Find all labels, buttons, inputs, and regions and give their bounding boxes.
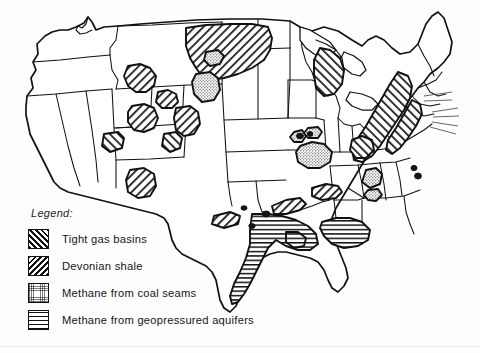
legend-label-devonian-shale: Devonian shale bbox=[62, 260, 143, 272]
region-denver-basin bbox=[174, 106, 200, 136]
legend-label-coal-seams: Methane from coal seams bbox=[62, 287, 196, 299]
bottom-rule bbox=[0, 346, 480, 347]
region-paradox bbox=[102, 132, 124, 152]
legend-swatch-tight-gas-basins bbox=[28, 229, 49, 249]
region-san-juan bbox=[126, 168, 156, 198]
legend-item-geopressured-aquifers: Methane from geopressured aquifers bbox=[28, 309, 428, 331]
region-uinta-piceance bbox=[128, 104, 158, 132]
region-raton bbox=[162, 132, 182, 152]
region-arkoma bbox=[312, 184, 342, 200]
legend: Legend: Tight gas basins Devonian shale … bbox=[28, 207, 428, 336]
legend-swatch-devonian-shale bbox=[28, 256, 49, 276]
us-resource-map: Legend: Tight gas basins Devonian shale … bbox=[0, 0, 480, 353]
region-cincinnati-arch bbox=[350, 136, 374, 158]
legend-label-tight-gas-basins: Tight gas basins bbox=[62, 233, 147, 245]
legend-label-geopressured-aquifers: Methane from geopressured aquifers bbox=[62, 314, 254, 326]
legend-item-tight-gas-basins: Tight gas basins bbox=[28, 228, 428, 250]
region-illinois-basin bbox=[296, 142, 332, 168]
region-wind-river bbox=[156, 90, 178, 108]
legend-item-coal-seams: Methane from coal seams bbox=[28, 282, 428, 304]
legend-swatch-coal-seams bbox=[28, 283, 49, 303]
region-warrior-south bbox=[364, 189, 382, 201]
legend-swatch-geopressured-aquifers bbox=[28, 310, 49, 330]
leader-lines bbox=[424, 92, 459, 134]
region-montana-coal bbox=[204, 50, 224, 66]
legend-item-devonian-shale: Devonian shale bbox=[28, 255, 428, 277]
region-cherokee bbox=[304, 127, 322, 138]
legend-title: Legend: bbox=[31, 207, 428, 219]
region-warrior-basin bbox=[362, 168, 382, 188]
region-powder-river bbox=[192, 72, 220, 102]
